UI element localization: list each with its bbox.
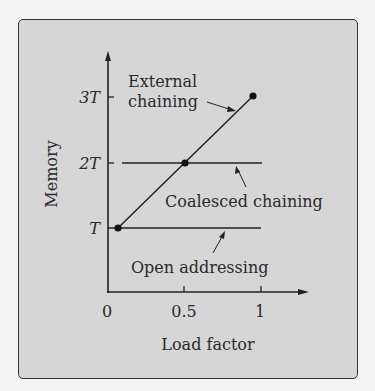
chart-svg: 3T 2T T 0 0.5 1 Load factor Memory Exter… <box>0 0 375 391</box>
x-tick-0: 0 <box>102 302 112 321</box>
label-chaining: chaining <box>128 92 198 111</box>
data-point <box>114 224 121 231</box>
label-coalesced-chaining: Coalesced chaining <box>165 192 323 211</box>
x-tick-1: 1 <box>255 302 265 321</box>
y-tick-2T: 2T <box>78 154 101 173</box>
y-axis-arrow-icon <box>105 51 111 61</box>
y-tick-3T: 3T <box>79 88 101 107</box>
y-tick-T: T <box>89 219 101 238</box>
x-axis-title: Load factor <box>161 335 255 354</box>
x-axis-arrow-icon <box>298 289 309 295</box>
data-point <box>249 92 256 99</box>
data-point <box>181 159 188 166</box>
x-tick-0.5: 0.5 <box>171 302 196 321</box>
label-external: External <box>128 72 197 91</box>
y-axis-title: Memory <box>42 140 61 207</box>
label-open-addressing: Open addressing <box>131 258 268 277</box>
